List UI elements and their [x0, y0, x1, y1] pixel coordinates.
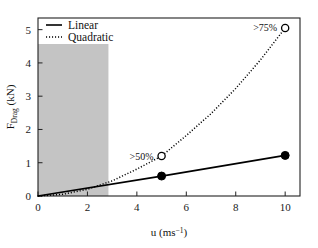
- annotation-label: >75%: [253, 22, 277, 33]
- y-tick-label: 3: [26, 90, 32, 102]
- x-tick-label: 10: [280, 201, 292, 213]
- y-axis-title: FDrag (kN): [4, 84, 19, 129]
- shaded-region: [38, 44, 108, 196]
- y-tick-label: 2: [26, 123, 32, 135]
- x-tick-label: 4: [134, 201, 140, 213]
- x-tick-label: 6: [184, 201, 190, 213]
- y-tick-label: 1: [26, 157, 32, 169]
- y-tick-label: 0: [26, 190, 32, 202]
- legend-label-quadratic: Quadratic: [68, 31, 113, 43]
- y-tick-label: 4: [26, 57, 32, 69]
- annotation-layer: >50%>75%: [130, 22, 278, 161]
- x-axis-title: u (ms−1): [151, 226, 188, 240]
- data-marker-quadratic: [282, 24, 289, 31]
- x-tick-label: 2: [85, 201, 91, 213]
- legend-label-linear: Linear: [68, 19, 98, 31]
- x-tick-label: 0: [35, 201, 41, 213]
- data-marker-linear: [158, 172, 166, 180]
- x-tick-label: 8: [233, 201, 239, 213]
- data-marker-quadratic: [158, 152, 165, 159]
- y-tick-label: 5: [26, 24, 32, 36]
- data-marker-linear: [281, 151, 289, 159]
- annotation-label: >50%: [130, 151, 154, 162]
- chart-svg: 0246810 012345 >50%>75% Linear Quadratic…: [0, 0, 318, 248]
- drag-force-chart: 0246810 012345 >50%>75% Linear Quadratic…: [0, 0, 318, 248]
- chart-legend: Linear Quadratic: [46, 19, 113, 43]
